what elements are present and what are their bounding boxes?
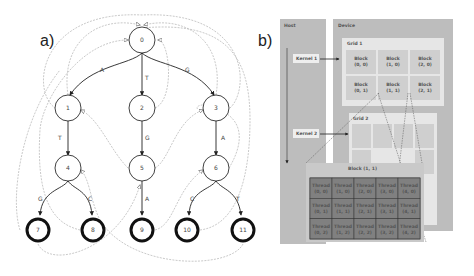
thread-cell: Thread(1, 0): [332, 178, 354, 198]
svg-text:(3, 2): (3, 2): [380, 230, 394, 235]
svg-text:Thread: Thread: [334, 183, 352, 188]
cuda-grid-diagram: Host Device Kernel 1 Kernel 2 Grid 1 Blo…: [0, 0, 474, 276]
thread-cell: Thread(3, 0): [376, 178, 398, 198]
svg-text:(3, 1): (3, 1): [380, 209, 394, 214]
svg-text:Thread: Thread: [400, 183, 418, 188]
grid1-block: Block(0, 0): [346, 50, 376, 74]
svg-text:(1, 0): (1, 0): [386, 62, 400, 67]
svg-text:(1, 1): (1, 1): [336, 209, 350, 214]
thread-cell: Thread(1, 1): [332, 198, 354, 218]
svg-text:Thread: Thread: [312, 183, 330, 188]
thread-cell: Thread(3, 2): [376, 219, 398, 239]
svg-text:(0, 0): (0, 0): [314, 189, 328, 194]
thread-cell: Thread(0, 1): [310, 198, 332, 218]
svg-text:Thread: Thread: [312, 224, 330, 229]
svg-text:(0, 1): (0, 1): [354, 88, 368, 93]
host-label: Host: [284, 23, 297, 28]
svg-text:Thread: Thread: [356, 203, 374, 208]
grid1-block: Block(2, 0): [410, 50, 440, 74]
svg-text:(2, 1): (2, 1): [418, 88, 432, 93]
svg-text:(2, 1): (2, 1): [358, 209, 372, 214]
svg-text:Thread: Thread: [400, 224, 418, 229]
thread-cell: Thread(0, 0): [310, 178, 332, 198]
svg-text:(4, 1): (4, 1): [402, 209, 416, 214]
thread-cell: Thread(2, 1): [354, 198, 376, 218]
svg-text:Thread: Thread: [334, 224, 352, 229]
grid1-block: Block(1, 1): [378, 76, 408, 100]
svg-text:Thread: Thread: [378, 224, 396, 229]
svg-text:(3, 0): (3, 0): [380, 189, 394, 194]
svg-text:(2, 0): (2, 0): [418, 62, 432, 67]
svg-text:Thread: Thread: [356, 183, 374, 188]
thread-cell: Thread(4, 1): [398, 198, 420, 218]
svg-text:Thread: Thread: [356, 224, 374, 229]
block-detail-label: Block (1, 1): [348, 166, 377, 171]
thread-cell: Thread(0, 2): [310, 219, 332, 239]
grid1-label: Grid 1: [347, 41, 362, 46]
svg-text:(4, 0): (4, 0): [402, 189, 416, 194]
svg-text:(2, 2): (2, 2): [358, 230, 372, 235]
svg-text:Block: Block: [354, 82, 369, 87]
thread-cell: Thread(4, 0): [398, 178, 420, 198]
grid1-block: Block(0, 1): [346, 76, 376, 100]
svg-text:(0, 2): (0, 2): [314, 230, 328, 235]
kernel1-label: Kernel 1: [296, 56, 317, 61]
svg-text:(1, 0): (1, 0): [336, 189, 350, 194]
thread-cell: Thread(2, 0): [354, 178, 376, 198]
thread-cell: Thread(3, 1): [376, 198, 398, 218]
grid1-block: Block(1, 0): [378, 50, 408, 74]
svg-text:(2, 0): (2, 0): [358, 189, 372, 194]
svg-text:(4, 2): (4, 2): [402, 230, 416, 235]
svg-text:Block: Block: [418, 56, 433, 61]
svg-text:(1, 1): (1, 1): [386, 88, 400, 93]
svg-text:Thread: Thread: [378, 203, 396, 208]
svg-text:Block: Block: [354, 56, 369, 61]
svg-text:Block: Block: [418, 82, 433, 87]
thread-cell: Thread(4, 2): [398, 219, 420, 239]
svg-text:Thread: Thread: [312, 203, 330, 208]
svg-text:(0, 0): (0, 0): [354, 62, 368, 67]
thread-cell: Thread(2, 2): [354, 219, 376, 239]
device-label: Device: [338, 23, 355, 28]
svg-text:(0, 1): (0, 1): [314, 209, 328, 214]
svg-text:Block: Block: [386, 56, 401, 61]
svg-text:(1, 2): (1, 2): [336, 230, 350, 235]
svg-text:Thread: Thread: [400, 203, 418, 208]
svg-text:Block: Block: [386, 82, 401, 87]
grid2-label: Grid 2: [353, 116, 368, 121]
kernel2-label: Kernel 2: [296, 131, 317, 136]
svg-text:Thread: Thread: [334, 203, 352, 208]
thread-cell: Thread(1, 2): [332, 219, 354, 239]
grid1-block: Block(2, 1): [410, 76, 440, 100]
svg-text:Thread: Thread: [378, 183, 396, 188]
